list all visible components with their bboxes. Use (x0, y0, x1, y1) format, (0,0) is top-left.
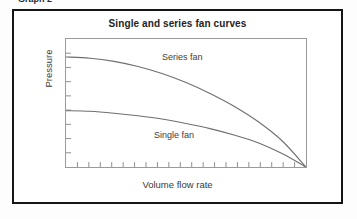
y-axis-label: Pressure (43, 29, 54, 109)
series-fan-label: Series fan (162, 52, 203, 62)
x-axis-ticks (77, 162, 294, 167)
figure-caption-clipped: Graph 2 (18, 0, 88, 4)
figure-card: Single and series fan curves Pressure Se… (12, 9, 343, 204)
figure-caption-text: Graph 2 (18, 0, 88, 4)
y-axis-ticks (66, 53, 71, 153)
chart-title: Single and series fan curves (14, 18, 341, 29)
single-fan-label: Single fan (154, 130, 194, 140)
x-axis-label: Volume flow rate (14, 179, 341, 190)
